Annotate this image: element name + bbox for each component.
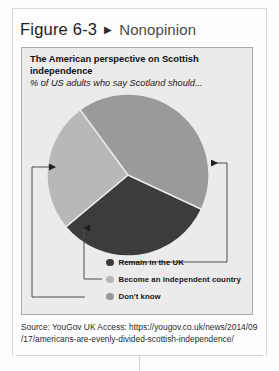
source-line-2: /17/americans-are-evenly-divided-scottis… (21, 334, 265, 346)
chart-card: The American perspective on Scottish ind… (21, 47, 253, 315)
chart-subtitle: % of US adults who say Scotland should..… (30, 78, 244, 89)
page-border-left (12, 8, 13, 356)
legend-item-dont-know: Don't know (106, 288, 248, 305)
figure-page: Figure 6-3 ▶ Nonopinion The American per… (0, 0, 279, 371)
legend-swatch-icon (106, 293, 114, 301)
pie-chart (46, 93, 210, 257)
page-border-top (12, 8, 267, 9)
page-divider-stub (139, 355, 140, 371)
figure-header: Figure 6-3 ▶ Nonopinion (20, 18, 196, 40)
legend-item-become-an-independent-country: Become an independent country (106, 271, 248, 288)
source-line-1: Source: YouGov UK Access: https://yougov… (21, 322, 265, 334)
chart-title: The American perspective on Scottish ind… (30, 54, 238, 77)
legend-label: Remain in the UK (119, 258, 184, 267)
legend-swatch-icon (106, 259, 114, 267)
page-border-right (266, 8, 267, 356)
chart-legend: Remain in the UK Become an independent c… (106, 254, 248, 305)
legend-item-remain-in-the-uk: Remain in the UK (106, 254, 248, 271)
source-note: Source: YouGov UK Access: https://yougov… (21, 322, 265, 345)
figure-title: Nonopinion (119, 21, 196, 38)
pie-chart-svg (46, 93, 210, 257)
legend-label: Don't know (119, 292, 161, 301)
figure-number: Figure 6-3 (20, 20, 97, 39)
legend-label: Become an independent country (119, 275, 241, 284)
legend-swatch-icon (106, 276, 114, 284)
triangle-right-icon: ▶ (104, 25, 112, 35)
